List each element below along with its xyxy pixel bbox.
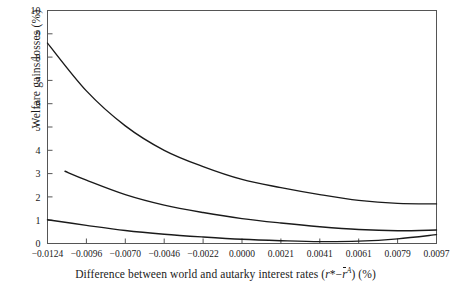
line-chart: 012345678910 −0.0124−0.0096−0.0070−0.004… [0,0,451,286]
svg-text:0.0097: 0.0097 [423,249,449,259]
y-axis-title: Welfare gains/losses (%) [26,0,44,164]
svg-text:−0.0124: −0.0124 [32,249,64,259]
svg-text:−0.0022: −0.0022 [187,249,219,259]
x-axis-title-prefix: Difference between world and autarky int… [75,268,325,280]
x-axis-title-suffix: ) (%) [351,268,375,280]
x-axis-title-minus-symbol: − [336,268,343,280]
svg-text:0.0041: 0.0041 [307,249,333,259]
svg-text:2: 2 [36,192,41,203]
series-line-middle-curve [65,171,437,230]
x-axis-title-text: Difference between world and autarky int… [75,268,376,280]
x-axis-title-rbar-symbol: r [342,268,347,280]
chart-figure: 012345678910 −0.0124−0.0096−0.0070−0.004… [0,0,451,286]
plot-frame [48,11,437,244]
svg-text:0: 0 [36,238,41,249]
svg-text:0.0021: 0.0021 [268,249,294,259]
series-line-upper-curve [48,43,437,204]
svg-text:1: 1 [36,215,41,226]
svg-text:−0.0046: −0.0046 [148,249,180,259]
svg-text:−0.0070: −0.0070 [110,249,142,259]
y-axis-title-text: Welfare gains/losses (%) [30,10,42,129]
x-axis-title: Difference between world and autarky int… [0,264,451,282]
x-axis-tick-labels: −0.0124−0.0096−0.0070−0.0046−0.00220.000… [32,249,450,259]
svg-text:0.0079: 0.0079 [385,249,411,259]
svg-text:−0.0096: −0.0096 [71,249,103,259]
svg-text:0.0000: 0.0000 [229,249,255,259]
data-series-group [48,43,437,242]
svg-text:3: 3 [36,168,41,179]
svg-text:0.0061: 0.0061 [346,249,372,259]
